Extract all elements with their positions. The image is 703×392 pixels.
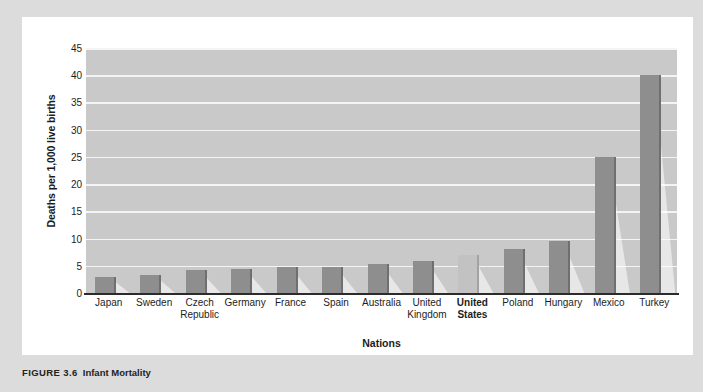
y-axis-tick-label: 15: [56, 206, 82, 217]
bar-body: [231, 269, 252, 293]
bar[interactable]: [315, 48, 357, 293]
bar[interactable]: [406, 48, 448, 293]
caption-figure-title: Infant Mortality: [83, 367, 151, 378]
x-axis-title: Nations: [86, 337, 677, 349]
figure-caption: FIGURE 3.6Infant Mortality: [22, 367, 151, 378]
bar-chart: Deaths per 1,000 live births 05101520253…: [22, 17, 693, 355]
bar-body: [504, 249, 525, 293]
x-axis-line: [84, 293, 679, 295]
bar-body: [595, 157, 616, 293]
bar[interactable]: [588, 48, 630, 293]
y-axis-tick-label: 40: [56, 70, 82, 81]
y-axis-tick-label: 0: [56, 288, 82, 299]
y-axis-tick-label: 45: [56, 43, 82, 54]
bar[interactable]: [88, 48, 130, 293]
bar[interactable]: [451, 48, 493, 293]
bar[interactable]: [133, 48, 175, 293]
x-axis-tick-label: Turkey: [626, 297, 682, 309]
figure-panel: Deaths per 1,000 live births 05101520253…: [22, 17, 693, 355]
y-axis-tick-label: 30: [56, 124, 82, 135]
y-axis-tick-labels: 051015202530354045: [52, 48, 82, 293]
bar[interactable]: [361, 48, 403, 293]
x-axis-tick-label-line: Turkey: [626, 297, 682, 309]
bar[interactable]: [633, 48, 675, 293]
y-axis-tick-label: 10: [56, 233, 82, 244]
x-axis-tick-label-line: Republic: [172, 309, 228, 321]
caption-figure-number: FIGURE 3.6: [22, 367, 78, 378]
y-axis-tick-label: 5: [56, 260, 82, 271]
bar[interactable]: [542, 48, 584, 293]
bar-body: [368, 264, 389, 293]
bar[interactable]: [270, 48, 312, 293]
plot-area: [86, 48, 677, 293]
y-axis-tick-label: 35: [56, 97, 82, 108]
bar-body: [140, 275, 161, 293]
bar-body: [322, 267, 343, 293]
bar-body: [458, 255, 479, 293]
bar[interactable]: [497, 48, 539, 293]
bar-body: [277, 267, 298, 293]
bar-body: [413, 261, 434, 293]
y-axis-tick-label: 20: [56, 179, 82, 190]
bar-body: [640, 75, 661, 293]
y-axis-tick-label: 25: [56, 151, 82, 162]
bar[interactable]: [179, 48, 221, 293]
bar-body: [95, 277, 116, 293]
x-axis-tick-label-line: States: [444, 309, 500, 321]
bar-body: [186, 270, 207, 293]
bar[interactable]: [224, 48, 266, 293]
bar-body: [549, 241, 570, 293]
